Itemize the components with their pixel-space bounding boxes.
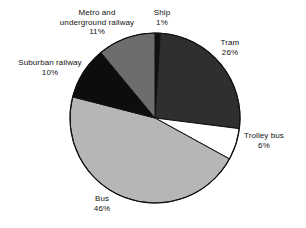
slice-label-tram: Tram 26% (206, 38, 254, 57)
slice-label-trolley-bus: Trolley bus 6% (233, 131, 295, 150)
slice-label-trolley-bus-line1: Trolley bus (244, 131, 284, 140)
slice-label-trolley-bus-pct: 6% (233, 141, 295, 151)
slice-label-ship-pct: 1% (142, 18, 182, 28)
slice-label-suburban-railway-line1: Suburban railway (18, 58, 81, 67)
pie-chart: Metro and underground railway 11% Ship 1… (0, 0, 306, 228)
slice-label-suburban-railway: Suburban railway 10% (4, 58, 96, 77)
slice-label-ship: Ship 1% (142, 8, 182, 27)
slice-label-bus: Bus 46% (82, 194, 122, 213)
slice-label-tram-line1: Tram (221, 38, 240, 47)
slice-label-suburban-railway-pct: 10% (4, 68, 96, 78)
slice-label-metro-line1: Metro and (79, 8, 116, 17)
slice-label-bus-line1: Bus (95, 194, 109, 203)
slice-label-metro-line2: underground railway (60, 18, 134, 27)
slice-label-bus-pct: 46% (82, 204, 122, 214)
slice-label-metro: Metro and underground railway 11% (44, 8, 150, 37)
slice-label-metro-pct: 11% (44, 27, 150, 37)
slice-label-ship-line1: Ship (154, 8, 170, 17)
slice-label-tram-pct: 26% (206, 48, 254, 58)
